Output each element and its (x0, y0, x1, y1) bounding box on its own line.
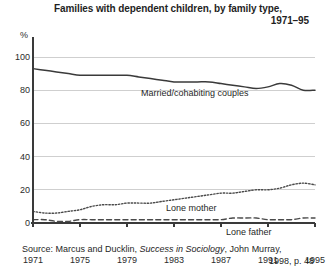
plot-svg (0, 28, 325, 228)
source-suffix: , John Murray, (225, 244, 282, 254)
source-note: Source: Marcus and Ducklin, Success in S… (22, 243, 314, 267)
source-book-title: Success in Sociology (140, 244, 225, 254)
chart-title-line2: 1971–95 (18, 15, 318, 27)
series-label-married-cohabiting-couples: Married/cohabiting couples (141, 88, 249, 98)
axis-lines (31, 37, 315, 223)
chart-title-line1: Families with dependent children, by fam… (54, 3, 282, 14)
plot-area: Married/cohabiting couples Lone mother L… (0, 28, 325, 228)
source-prefix: Source: Marcus and Ducklin, (22, 244, 140, 254)
series-label-lone-father: Lone father (226, 227, 272, 237)
series-line-2 (33, 218, 315, 222)
series-label-lone-mother: Lone mother (166, 203, 217, 213)
source-line2: 1998, p. 48 (22, 255, 314, 267)
chart-title: Families with dependent children, by fam… (18, 3, 318, 27)
